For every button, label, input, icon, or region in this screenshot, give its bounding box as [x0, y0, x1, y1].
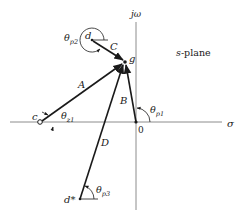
pole-d-conj — [79, 198, 82, 201]
s-plane-diagram: jω σ 0 s-plane g d c d* A B C D θp2 θz1 … — [0, 0, 245, 213]
vector-b-label: B — [119, 95, 127, 106]
pole-origin — [134, 120, 137, 123]
theta-p3-label: θp3 — [96, 184, 110, 198]
vector-a — [42, 64, 122, 121]
origin-label: 0 — [138, 125, 144, 135]
theta-p3-arc — [85, 186, 94, 199]
theta-z1-arc — [52, 127, 53, 131]
vector-d — [80, 65, 123, 199]
vector-a-label: A — [77, 79, 85, 90]
zero-c-label: c — [32, 111, 38, 122]
theta-p1-arc — [137, 108, 150, 122]
theta-p2-label: θp2 — [64, 32, 78, 46]
real-axis-label: σ — [227, 118, 235, 129]
vector-d-label: D — [100, 137, 109, 148]
vector-c-label: C — [110, 41, 118, 52]
pole-d-label: d — [85, 30, 91, 41]
imag-axis-label: jω — [129, 9, 142, 19]
theta-z1-arc-top — [42, 112, 48, 115]
theta-p1-label: θp1 — [150, 104, 164, 118]
zero-c — [38, 120, 43, 125]
point-g-label: g — [129, 53, 135, 64]
theta-z1-label: θz1 — [61, 110, 74, 124]
pole-d-conj-label: d* — [64, 194, 75, 205]
point-g — [123, 60, 127, 64]
vector-b — [126, 65, 136, 122]
plane-title: s-plane — [176, 47, 211, 58]
